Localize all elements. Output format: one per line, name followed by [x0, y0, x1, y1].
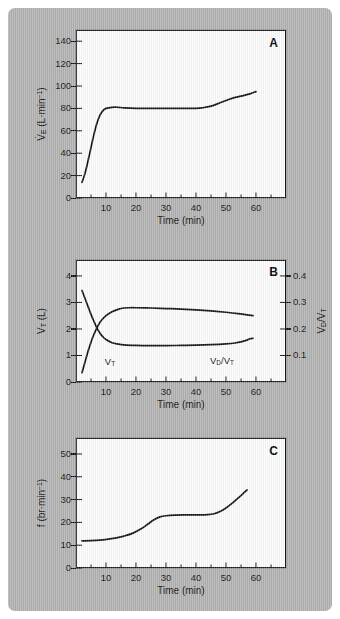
panel-a-xtick-20: 20: [131, 203, 142, 213]
panel-a-ytitle-left: V·E (L·min−1): [37, 87, 47, 140]
panel-c-xtitle: Time (min): [157, 586, 204, 596]
panel-b-xtick-10: 10: [101, 387, 112, 397]
panel-b-ytick-right-0.3: 0.3: [293, 298, 306, 308]
panel-b-ytick-mark-3: [71, 302, 76, 303]
panel-b-ytitle-right: VD/VT: [317, 308, 327, 333]
figure-container: A B VT VD/VT C 0204060801001201401020304…: [8, 8, 332, 611]
panel-a-ytick-mark-120: [71, 63, 76, 64]
panel-b-series-vdvt: [82, 291, 253, 346]
panel-a-series-minuteventilation: [82, 92, 256, 183]
panel-a-svg: [76, 30, 286, 198]
panel-c-ytick-20: 20: [60, 518, 71, 528]
panel-b-xtick-60: 60: [251, 387, 262, 397]
panel-b-ytick-mark-2: [71, 328, 76, 329]
panel-a-ytick-120: 120: [55, 59, 71, 69]
panel-b-ytick-mark-1: [71, 355, 76, 356]
panel-c-ytick-mark-0: [71, 568, 76, 569]
panel-a-plot: [76, 30, 286, 198]
panel-b-xtitle: Time (min): [157, 400, 204, 410]
panel-a-ytick-60: 60: [60, 126, 71, 136]
panel-b-xtick-50: 50: [221, 387, 232, 397]
panel-a: A: [76, 30, 286, 198]
panel-a-ytick-mark-80: [71, 108, 76, 109]
panel-c-ytick-30: 30: [60, 495, 71, 505]
curve-label-vdvt: VD/VT: [210, 355, 234, 366]
panel-b-xtick-20: 20: [131, 387, 142, 397]
panel-c-ytick-mark-10: [71, 545, 76, 546]
panel-b-ytick-right-mark-0.3: [286, 302, 291, 303]
panel-a-ytick-140: 140: [55, 36, 71, 46]
panel-c-ytick-mark-20: [71, 522, 76, 523]
panel-b-letter: B: [269, 265, 278, 279]
panel-a-xtick-50: 50: [221, 203, 232, 213]
panel-b-ytick-right-0.2: 0.2: [293, 324, 306, 334]
panel-c-ytick-mark-50: [71, 453, 76, 454]
panel-a-ytick-mark-60: [71, 130, 76, 131]
panel-c-ytitle-left: f (br·min−1): [37, 479, 47, 527]
panel-c-ytick-mark-40: [71, 476, 76, 477]
panel-c-letter: C: [269, 444, 278, 458]
panel-a-ytick-80: 80: [60, 104, 71, 114]
panel-b-ytitle-left: VT (L): [37, 308, 47, 334]
panel-a-ytick-mark-40: [71, 153, 76, 154]
panel-a-xtick-60: 60: [251, 203, 262, 213]
panel-b-xtick-30: 30: [161, 387, 172, 397]
panel-a-xtick-40: 40: [191, 203, 202, 213]
panel-b-ytick-mark-0: [71, 382, 76, 383]
panel-c-ytick-mark-30: [71, 499, 76, 500]
panel-a-xtick-10: 10: [101, 203, 112, 213]
panel-a-ytick-mark-20: [71, 175, 76, 176]
panel-a-ytick-mark-140: [71, 41, 76, 42]
panel-b-xtick-40: 40: [191, 387, 202, 397]
panel-c-xtick-60: 60: [251, 573, 262, 583]
panel-b: B VT VD/VT: [76, 260, 286, 382]
panel-a-xtick-30: 30: [161, 203, 172, 213]
panel-c-ytick-50: 50: [60, 449, 71, 459]
panel-c-xtick-10: 10: [101, 573, 112, 583]
panel-b-ytick-right-mark-0.2: [286, 328, 291, 329]
panel-a-ytick-mark-0: [71, 198, 76, 199]
panel-a-xtitle: Time (min): [157, 216, 204, 226]
panel-c-plot: [76, 438, 286, 568]
panel-a-ytick-100: 100: [55, 81, 71, 91]
panel-b-ytick-right-0.4: 0.4: [293, 271, 306, 281]
panel-a-letter: A: [269, 36, 278, 50]
panel-a-ytick-mark-100: [71, 86, 76, 87]
panel-c: C: [76, 438, 286, 568]
panel-c-xtick-30: 30: [161, 573, 172, 583]
panel-c-ytick-40: 40: [60, 472, 71, 482]
panel-c-xtick-20: 20: [131, 573, 142, 583]
panel-c-series-breathingfrequency: [82, 490, 247, 541]
panel-a-ytick-20: 20: [60, 171, 71, 181]
panel-b-ytick-mark-4: [71, 275, 76, 276]
curve-label-vt: VT: [105, 356, 115, 367]
panel-c-svg: [76, 438, 286, 568]
panel-b-ytick-right-0.1: 0.1: [293, 351, 306, 361]
panel-a-ytick-40: 40: [60, 148, 71, 158]
panel-b-ytick-right-mark-0.4: [286, 275, 291, 276]
panel-c-xtick-50: 50: [221, 573, 232, 583]
panel-b-ytick-right-mark-0.1: [286, 355, 291, 356]
panel-c-xtick-40: 40: [191, 573, 202, 583]
panel-c-ytick-10: 10: [60, 540, 71, 550]
